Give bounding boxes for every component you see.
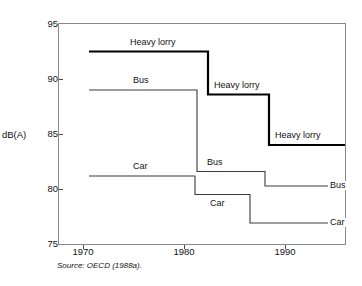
label-car-1: Car	[131, 162, 150, 171]
chart-plot-area: dB(A) 95 90 85 80 75 1970 1980 1990	[0, 0, 362, 286]
label-heavy-lorry-1: Heavy lorry	[128, 38, 178, 47]
label-heavy-lorry-3: Heavy lorry	[273, 131, 323, 140]
source-note: Source: OECD (1988a).	[57, 261, 142, 270]
label-car-3: Car	[328, 218, 347, 227]
label-bus-2: Bus	[205, 158, 225, 167]
label-heavy-lorry-2: Heavy lorry	[212, 81, 262, 90]
label-car-2: Car	[208, 199, 227, 208]
chart-canvas	[0, 0, 362, 286]
label-bus-1: Bus	[131, 76, 151, 85]
label-bus-3: Bus	[328, 181, 348, 190]
figure-noise-limits: dB(A) 95 90 85 80 75 1970 1980 1990	[0, 0, 362, 286]
